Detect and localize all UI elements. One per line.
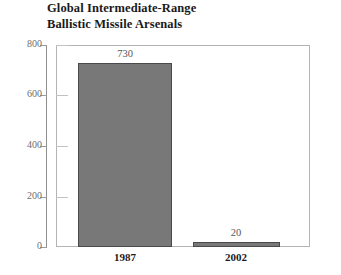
chart-figure: Global Intermediate-Range Ballistic Miss… xyxy=(0,0,341,275)
y-tick-label: 400 xyxy=(27,139,42,150)
y-tick-label: 800 xyxy=(27,38,42,49)
chart-title-line-2: Ballistic Missile Arsenals xyxy=(47,17,307,33)
chart-title-line-1: Global Intermediate-Range xyxy=(47,1,307,17)
category-label-2002: 2002 xyxy=(206,251,266,263)
bar-value-1987: 730 xyxy=(95,48,155,59)
bar-value-2002: 20 xyxy=(206,227,266,238)
y-tick-800: 800 xyxy=(0,45,341,46)
y-tick-stub xyxy=(56,146,68,147)
y-tick-0: 0 xyxy=(0,247,341,248)
y-tick-label: 200 xyxy=(27,190,42,201)
y-tick-stub xyxy=(56,197,68,198)
category-label-1987: 1987 xyxy=(95,251,155,263)
chart-title: Global Intermediate-Range Ballistic Miss… xyxy=(47,1,307,32)
y-tick-stub xyxy=(56,95,68,96)
y-tick-stub xyxy=(56,45,68,46)
y-tick-label: 600 xyxy=(27,88,42,99)
y-tick-stub xyxy=(56,247,68,248)
y-tick-label: 0 xyxy=(37,240,42,251)
bar-1987[interactable] xyxy=(78,63,172,247)
bar-2002[interactable] xyxy=(193,242,280,247)
